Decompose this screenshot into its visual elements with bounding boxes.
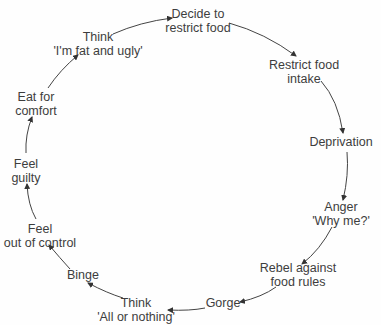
node-line: intake bbox=[269, 72, 339, 86]
eating-cycle-diagram: Decide to restrict food Restrict food in… bbox=[0, 0, 381, 325]
node-line: out of control bbox=[4, 236, 76, 250]
arrow-restrict-to-deprivation bbox=[321, 81, 343, 133]
arrow-guilty-to-comfort bbox=[26, 117, 32, 153]
node-line: Decide to bbox=[165, 7, 230, 21]
node-line: 'All or nothing' bbox=[97, 310, 175, 324]
node-line: food rules bbox=[260, 275, 336, 289]
arrow-comfort-to-thinkfat bbox=[48, 55, 78, 88]
node-line: Think bbox=[97, 296, 175, 310]
node-line: Feel bbox=[4, 222, 76, 236]
node-line: 'Why me?' bbox=[312, 214, 370, 228]
arrow-decide-to-restrict bbox=[229, 23, 296, 56]
node-line: guilty bbox=[11, 171, 40, 185]
node-binge: Binge bbox=[67, 268, 99, 282]
node-deprivation: Deprivation bbox=[309, 135, 372, 149]
arrow-rebel-to-gorge bbox=[240, 287, 276, 302]
node-think-fat-and-ugly: Think 'I'm fat and ugly' bbox=[53, 30, 142, 58]
node-line: Binge bbox=[67, 268, 99, 282]
node-line: Deprivation bbox=[309, 135, 372, 149]
node-feel-guilty: Feel guilty bbox=[11, 157, 40, 185]
node-line: 'I'm fat and ugly' bbox=[53, 44, 142, 58]
arrow-outofcontrol-to-guilty bbox=[27, 184, 36, 219]
node-line: Eat for bbox=[15, 90, 57, 104]
arrow-deprivation-to-anger bbox=[343, 152, 348, 200]
node-line: Restrict food bbox=[269, 58, 339, 72]
node-line: Rebel against bbox=[260, 261, 336, 275]
node-decide-to-restrict: Decide to restrict food bbox=[165, 7, 230, 35]
node-line: Think bbox=[53, 30, 142, 44]
node-line: comfort bbox=[15, 104, 57, 118]
node-feel-out-of-control: Feel out of control bbox=[4, 222, 76, 250]
node-rebel-against-food-rules: Rebel against food rules bbox=[260, 261, 336, 289]
node-restrict-food-intake: Restrict food intake bbox=[269, 58, 339, 86]
node-anger: Anger 'Why me?' bbox=[312, 200, 370, 228]
node-line: restrict food bbox=[165, 21, 230, 35]
arrow-anger-to-rebel bbox=[302, 227, 332, 264]
node-line: Gorge bbox=[206, 296, 241, 310]
node-think-all-or-nothing: Think 'All or nothing' bbox=[97, 296, 175, 324]
node-line: Feel bbox=[11, 157, 40, 171]
node-gorge: Gorge bbox=[206, 296, 241, 310]
node-line: Anger bbox=[312, 200, 370, 214]
node-eat-for-comfort: Eat for comfort bbox=[15, 90, 57, 118]
